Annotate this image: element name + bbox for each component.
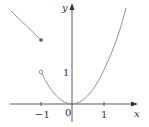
filled-point-marker <box>39 38 43 42</box>
parabola-piece <box>41 8 126 104</box>
x-axis-arrow-icon <box>131 102 138 107</box>
y-axis-label: y <box>61 2 68 13</box>
x-tick-label-neg1: −1 <box>35 109 50 120</box>
graph: y x 0 −1 1 1 <box>0 0 149 127</box>
open-point-marker <box>39 70 43 74</box>
x-axis-label: x <box>134 108 140 119</box>
y-axis-arrow-icon <box>70 3 75 10</box>
origin-label: 0 <box>65 107 71 118</box>
x-tick-label-1: 1 <box>101 109 107 120</box>
line-piece <box>11 11 41 40</box>
y-tick-label-1: 1 <box>63 67 69 78</box>
